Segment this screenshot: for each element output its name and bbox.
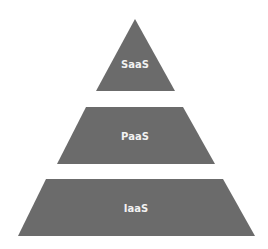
cloud-service-pyramid: SaaS PaaS IaaS	[0, 0, 268, 249]
pyramid-layer-iaas: IaaS	[18, 179, 255, 236]
layer-label-iaas: IaaS	[124, 203, 148, 214]
pyramid-layer-paas: PaaS	[57, 107, 215, 164]
layer-label-saas: SaaS	[121, 59, 149, 70]
layer-label-paas: PaaS	[121, 131, 149, 142]
pyramid-layer-saas: SaaS	[96, 19, 175, 91]
